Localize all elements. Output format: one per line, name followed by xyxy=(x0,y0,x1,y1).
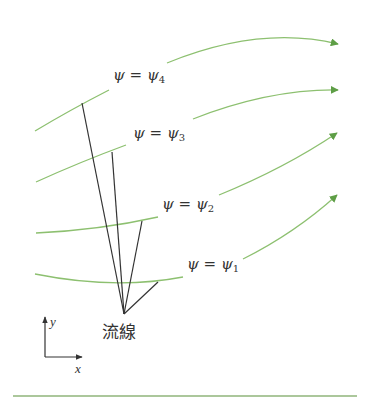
equals-sign: = xyxy=(130,66,143,84)
psi-symbol: ψ xyxy=(162,195,174,213)
label-psi4: ψ = ψ4 xyxy=(113,68,165,85)
psi-value-symbol: ψ xyxy=(196,195,208,213)
streamline-psi2 xyxy=(36,133,337,233)
vectors-caption: 流線 xyxy=(102,324,136,341)
label-psi2: ψ = ψ2 xyxy=(162,197,214,214)
streamline-psi3-right xyxy=(193,90,338,119)
streamline-psi3 xyxy=(36,90,338,182)
streamline-psi4-left xyxy=(35,90,109,131)
psi-subscript: 3 xyxy=(179,132,185,143)
x-axis-label: x xyxy=(75,362,81,375)
psi-subscript: 4 xyxy=(159,74,165,85)
psi-value-symbol: ψ xyxy=(147,66,159,84)
psi-subscript: 1 xyxy=(233,263,239,274)
psi-symbol: ψ xyxy=(113,66,125,84)
label-psi1: ψ = ψ1 xyxy=(187,257,239,274)
psi-value-symbol: ψ xyxy=(167,124,179,142)
psi-symbol: ψ xyxy=(133,124,145,142)
label-psi3: ψ = ψ3 xyxy=(133,126,185,143)
psi-symbol: ψ xyxy=(187,255,199,273)
streamline-psi4 xyxy=(35,38,338,131)
psi-subscript: 2 xyxy=(208,203,214,214)
vector-to-psi3 xyxy=(112,152,124,314)
equals-sign: = xyxy=(179,195,192,213)
equals-sign: = xyxy=(150,124,163,142)
equals-sign: = xyxy=(204,255,217,273)
streamline-psi1-left xyxy=(35,274,183,283)
streamline-psi2-right xyxy=(219,133,337,195)
streamline-psi1-right xyxy=(243,195,337,259)
streamline-diagram: ψ = ψ4 ψ = ψ3 ψ = ψ2 ψ = ψ1 流線 y x xyxy=(0,0,371,402)
psi-value-symbol: ψ xyxy=(221,255,233,273)
y-axis-label: y xyxy=(50,315,56,328)
streamline-psi4-right xyxy=(167,38,338,63)
